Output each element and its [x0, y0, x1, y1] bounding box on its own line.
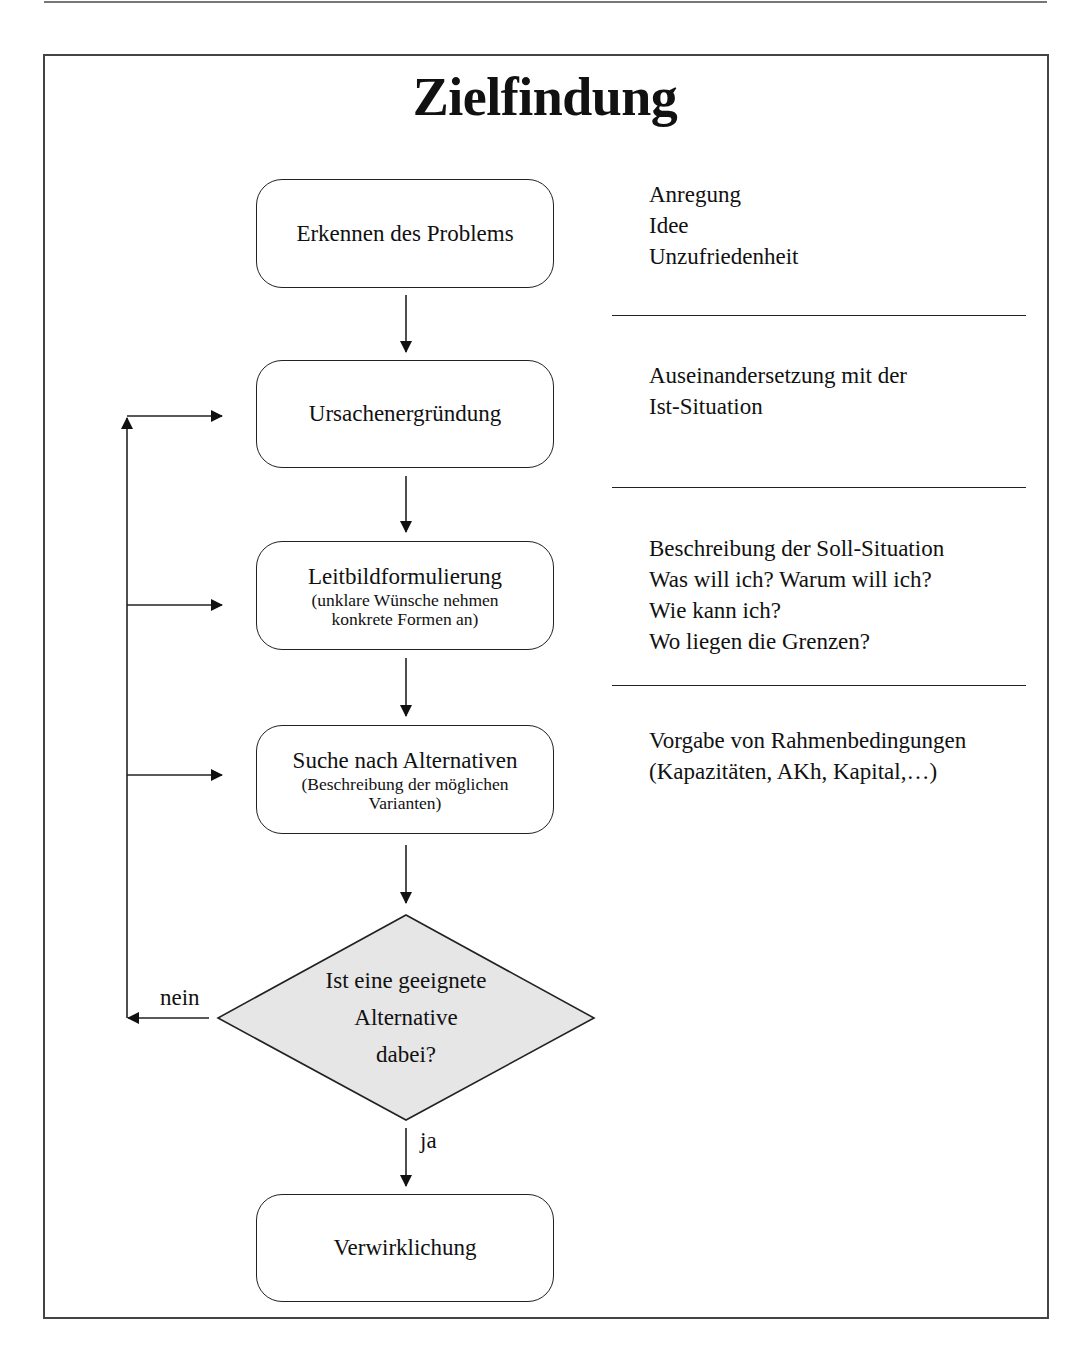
decision-line: Ist eine geeignete	[270, 962, 542, 999]
note-line: Auseinandersetzung mit der	[649, 360, 907, 391]
step-label: Ursachenergründung	[309, 400, 501, 428]
note-leitbild: Beschreibung der Soll-Situation Was will…	[649, 533, 944, 657]
note-line: Beschreibung der Soll-Situation	[649, 533, 944, 564]
note-divider	[612, 487, 1026, 488]
step-suche-nach-alternativen[interactable]: Suche nach Alternativen (Beschreibung de…	[256, 725, 554, 834]
note-line: Wie kann ich?	[649, 595, 944, 626]
note-line: Ist-Situation	[649, 391, 907, 422]
note-line: Unzufriedenheit	[649, 241, 798, 272]
note-line: Anregung	[649, 179, 798, 210]
step-label: Suche nach Alternativen	[293, 747, 518, 775]
step-label: Erkennen des Problems	[296, 220, 513, 248]
step-label: Leitbildformulierung	[308, 563, 502, 591]
note-line: Idee	[649, 210, 798, 241]
note-line: Was will ich? Warum will ich?	[649, 564, 944, 595]
decision-text: Ist eine geeignete Alternative dabei?	[270, 962, 542, 1073]
note-line: (Kapazitäten, AKh, Kapital,…)	[649, 756, 966, 787]
note-ursache: Auseinandersetzung mit der Ist-Situation	[649, 360, 907, 422]
step-ursachenergruendung[interactable]: Ursachenergründung	[256, 360, 554, 468]
decision-line: Alternative	[270, 999, 542, 1036]
step-label: Verwirklichung	[333, 1234, 476, 1262]
step-sublabel: (Beschreibung der möglichen Varianten)	[275, 775, 535, 813]
step-sublabel: (unklare Wünsche nehmen konkrete Formen …	[280, 591, 530, 629]
step-leitbildformulierung[interactable]: Leitbildformulierung (unklare Wünsche ne…	[256, 541, 554, 650]
note-line: Vorgabe von Rahmenbedingungen	[649, 725, 966, 756]
note-problem: Anregung Idee Unzufriedenheit	[649, 179, 798, 272]
step-erkennen-des-problems[interactable]: Erkennen des Problems	[256, 179, 554, 288]
note-alternativen: Vorgabe von Rahmenbedingungen (Kapazität…	[649, 725, 966, 787]
no-branch-label: nein	[160, 985, 200, 1011]
note-divider	[612, 315, 1026, 316]
decision-line: dabei?	[270, 1036, 542, 1073]
yes-branch-label: ja	[420, 1128, 437, 1154]
step-verwirklichung[interactable]: Verwirklichung	[256, 1194, 554, 1302]
note-divider	[612, 685, 1026, 686]
note-line: Wo liegen die Grenzen?	[649, 626, 944, 657]
